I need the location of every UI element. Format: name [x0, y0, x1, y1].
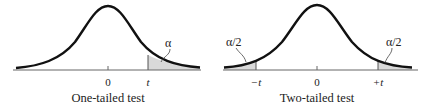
zero-label: 0	[314, 76, 320, 88]
one-tailed-caption: One-tailed test	[71, 91, 145, 105]
two-tailed-caption: Two-tailed test	[280, 91, 355, 105]
two-tailed-panel: α/2 α/2 −t 0 +t Two-tailed test	[223, 5, 418, 105]
right-alpha-half-label: α/2	[386, 35, 402, 49]
one-tailed-panel: α 0 t One-tailed test	[13, 6, 201, 105]
neg-t-label: −t	[251, 76, 262, 88]
normal-curve	[16, 6, 200, 68]
left-alpha-leader-line	[236, 48, 246, 62]
right-alpha-leader-line	[385, 48, 392, 63]
t-test-diagram: α 0 t One-tailed test α/2 α/2 −t 0 +t Tw…	[0, 0, 425, 107]
alpha-label: α	[165, 36, 172, 50]
t-label: t	[146, 76, 150, 88]
zero-label: 0	[105, 76, 111, 88]
pos-t-label: +t	[373, 76, 384, 88]
normal-curve	[224, 5, 412, 68]
left-alpha-half-label: α/2	[226, 35, 242, 49]
